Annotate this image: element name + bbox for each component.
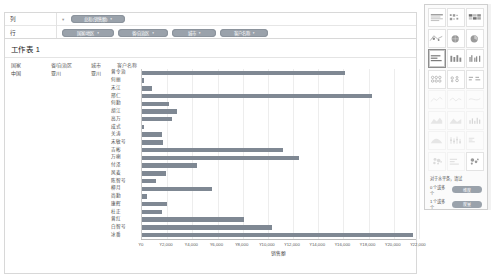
row-label: 康辉 (111, 202, 141, 207)
x-axis-tick-label: ¥18,000 (360, 242, 376, 247)
bar-mark[interactable] (142, 140, 163, 144)
bar-mark[interactable] (142, 132, 162, 136)
worksheet-title: 工作表 1 (5, 39, 416, 57)
x-axis-tick-label: ¥8,000 (235, 242, 248, 247)
plot-area: 中国 亚川 亚川 曾令治何丽宋江邢仁何勤胡江高万成式关涛宋敏号吉彬万喇付泽风麦陈… (5, 69, 416, 239)
pill-label: 客户名称 (234, 30, 250, 36)
line-continuous-icon[interactable] (428, 90, 446, 109)
row-label: 万喇 (111, 155, 141, 160)
bar-mark[interactable] (142, 86, 152, 90)
scatter-plot-icon[interactable] (428, 131, 446, 150)
row-label: 吉彬 (111, 148, 141, 153)
circle-view-icon[interactable] (447, 70, 465, 89)
row-label: 付泽 (111, 163, 141, 168)
chevron-down-icon: ▾ (152, 31, 154, 35)
chevron-down-icon: ▾ (199, 31, 201, 35)
pill-label: 总和(销售额) (84, 16, 107, 22)
pill-label: 城市 (188, 30, 196, 36)
bar-mark[interactable] (142, 125, 144, 129)
columns-shelf[interactable]: 列 ▾ 总和(销售额) ▾ (5, 13, 416, 26)
side-by-side-bar-icon[interactable] (466, 49, 484, 68)
row-label: 风麦 (111, 171, 141, 176)
area-continuous-icon[interactable] (428, 111, 446, 130)
row-label: 成式 (111, 125, 141, 130)
symbol-map-icon[interactable] (428, 29, 446, 48)
worksheet-pane: 工作表 1 国家 省/自治区 城市 客户名称 中国 亚川 亚川 曾令治何丽宋江邢… (4, 38, 417, 274)
dimension-columns: 中国 亚川 亚川 (5, 69, 111, 239)
show-me-requirement-dimensions: 0 个或多个 维度 (430, 184, 482, 196)
show-me-panel[interactable]: 对于水平条，请试 0 个或多个 维度 1 个或多个 度量 (424, 4, 488, 210)
measure-pill: 度量 (452, 201, 482, 208)
pill-label: 省/自治区 (132, 30, 149, 36)
bar-mark[interactable] (142, 117, 172, 121)
dimension-value-province: 亚川 (51, 69, 61, 76)
bar-mark[interactable] (142, 210, 162, 214)
stacked-bar-icon[interactable] (447, 49, 465, 68)
pill-country[interactable]: 国家/地区 ▾ (62, 29, 114, 37)
row-label: 陈智号 (111, 179, 141, 184)
gantt-icon[interactable] (428, 152, 446, 171)
columns-shelf-label: 列 (5, 15, 56, 23)
row-label: 胡江 (111, 109, 141, 114)
filled-map-icon[interactable] (447, 29, 465, 48)
row-label: 冰番 (111, 233, 141, 238)
dual-combination-icon[interactable] (466, 111, 484, 130)
bar-mark[interactable] (142, 202, 167, 206)
chevron-down-icon: ▾ (97, 31, 99, 35)
bar-mark[interactable] (142, 194, 147, 198)
bar-mark[interactable] (142, 187, 212, 191)
histogram-icon[interactable] (447, 131, 465, 150)
x-axis-tick-label: ¥16,000 (335, 242, 351, 247)
chevron-down-icon: ▾ (110, 17, 112, 21)
treemap-icon[interactable] (428, 70, 446, 89)
bar-mark[interactable] (142, 225, 272, 229)
x-axis-tick-label: ¥2,000 (160, 242, 173, 247)
bar-mark[interactable] (142, 156, 299, 160)
requirement-text: 0 个或多个 (430, 184, 449, 196)
show-me-hint: 对于水平条，请试 (430, 175, 482, 181)
box-and-whisker-icon[interactable] (466, 131, 484, 150)
packed-bubbles-icon[interactable] (466, 152, 484, 171)
heat-map-icon[interactable] (447, 8, 465, 27)
gridline (394, 69, 395, 239)
bar-mark[interactable] (142, 94, 372, 98)
row-label: 关涛 (111, 132, 141, 137)
pill-city[interactable]: 城市 ▾ (172, 29, 216, 37)
highlight-table-icon[interactable] (466, 8, 484, 27)
bar-mark[interactable] (142, 71, 345, 75)
pie-chart-icon[interactable] (466, 29, 484, 48)
bar-mark[interactable] (142, 148, 283, 152)
bar-marks-area[interactable] (141, 69, 416, 239)
columns-shelf-drop-zone[interactable]: ▾ 总和(销售额) ▾ (57, 13, 416, 26)
bullet-graph-icon[interactable] (447, 152, 465, 171)
area-discrete-icon[interactable] (447, 111, 465, 130)
bar-mark[interactable] (142, 163, 197, 167)
side-by-side-circle-icon[interactable] (466, 70, 484, 89)
shelf-area: 列 ▾ 总和(销售额) ▾ 行 国家/地区 ▾ 省/自治区 ▾ (4, 12, 417, 38)
dimension-value-city: 亚川 (91, 69, 101, 76)
bar-mark[interactable] (142, 233, 413, 237)
chevron-down-icon: ▾ (62, 17, 64, 22)
show-me-chart-grid[interactable] (428, 8, 484, 171)
x-axis-tick-label: ¥0 (139, 242, 144, 247)
bar-mark[interactable] (142, 102, 169, 106)
pill-province[interactable]: 省/自治区 ▾ (118, 29, 168, 37)
bar-mark[interactable] (142, 179, 156, 183)
bar-mark[interactable] (142, 109, 177, 113)
row-label-column: 曾令治何丽宋江邢仁何勤胡江高万成式关涛宋敏号吉彬万喇付泽风麦陈智号柳月尚勤康辉杜… (111, 69, 141, 239)
bar-mark[interactable] (142, 78, 144, 82)
pill-customer-name[interactable]: 客户名称 ▾ (220, 29, 268, 37)
bar-mark[interactable] (142, 171, 166, 175)
chevron-down-icon: ▾ (253, 31, 255, 35)
row-label: 尚勤 (111, 194, 141, 199)
column-header-province: 省/自治区 (51, 61, 91, 68)
bar-mark[interactable] (142, 217, 244, 221)
x-axis-title: 销售额 (141, 249, 416, 256)
x-axis[interactable]: 销售额 ¥0¥2,000¥4,000¥6,000¥8,000¥10,000¥12… (141, 239, 416, 256)
line-discrete-icon[interactable] (447, 90, 465, 109)
pill-sum-sales[interactable]: 总和(销售额) ▾ (71, 15, 125, 23)
column-header-country: 国家 (11, 61, 51, 68)
horizontal-bar-icon[interactable] (428, 49, 446, 68)
text-table-icon[interactable] (428, 8, 446, 27)
dual-line-icon[interactable] (466, 90, 484, 109)
